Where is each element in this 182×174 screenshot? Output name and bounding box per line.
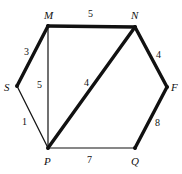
vertex-label-p: P bbox=[44, 156, 51, 167]
vertex-label-m: M bbox=[44, 10, 53, 21]
edge-weight-label-pn: 4 bbox=[84, 78, 89, 88]
graph-edges-canvas bbox=[0, 0, 182, 174]
edge-weight-label-nf: 4 bbox=[156, 50, 161, 60]
edge-weight-label-mp: 5 bbox=[37, 80, 42, 90]
graph-edge-ms bbox=[17, 26, 48, 86]
vertex-label-s: S bbox=[4, 82, 10, 93]
edge-weight-label-ms: 3 bbox=[24, 47, 29, 57]
graph-diagram: MNFQPS53154487 bbox=[0, 0, 182, 174]
vertex-label-n: N bbox=[131, 10, 138, 21]
graph-edge-mn bbox=[48, 26, 135, 27]
graph-vertex-s bbox=[15, 84, 19, 88]
edge-weight-label-pq: 7 bbox=[87, 155, 92, 165]
graph-vertex-p bbox=[46, 146, 50, 150]
graph-vertex-f bbox=[165, 85, 169, 89]
graph-edge-nf bbox=[135, 27, 167, 87]
graph-edge-pn bbox=[48, 27, 135, 148]
edge-weight-label-fq: 8 bbox=[155, 118, 160, 128]
graph-vertex-n bbox=[133, 25, 137, 29]
vertex-label-q: Q bbox=[131, 156, 139, 167]
graph-edge-fq bbox=[135, 87, 167, 148]
edge-weight-label-mn: 5 bbox=[88, 9, 93, 19]
graph-vertex-q bbox=[133, 146, 137, 150]
vertex-label-f: F bbox=[171, 82, 178, 93]
edge-weight-label-sp: 1 bbox=[22, 117, 27, 127]
graph-vertex-m bbox=[46, 24, 50, 28]
